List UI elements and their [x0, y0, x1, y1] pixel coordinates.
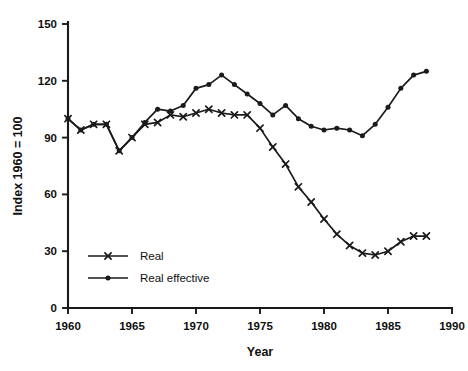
data-series-layer: [65, 69, 430, 258]
data-point: [373, 122, 378, 127]
data-point: [283, 161, 289, 167]
x-tick-label: 1985: [375, 320, 401, 332]
data-point: [283, 103, 288, 108]
x-tick-label: 1990: [439, 320, 465, 332]
data-point: [411, 73, 416, 78]
data-point: [386, 105, 391, 110]
data-point: [424, 69, 429, 74]
data-point: [347, 128, 352, 133]
x-tick-label: 1960: [55, 320, 81, 332]
y-axis-label: Index 1960 = 100: [11, 116, 25, 215]
data-point: [322, 128, 327, 133]
data-point: [334, 231, 340, 237]
legend-item-real-effective: Real effective: [88, 272, 209, 284]
data-point: [130, 135, 135, 140]
x-tick-label: 1965: [119, 320, 145, 332]
data-point: [270, 144, 276, 150]
data-point: [194, 86, 199, 91]
data-point: [398, 239, 404, 245]
legend-label: Real effective: [140, 272, 209, 284]
y-tick-label: 30: [44, 245, 57, 257]
data-point: [398, 86, 403, 91]
series-path: [68, 71, 426, 151]
data-point: [334, 126, 339, 131]
data-point: [270, 112, 275, 117]
y-tick-label: 0: [51, 302, 57, 314]
data-point: [295, 184, 301, 190]
data-point: [308, 199, 314, 205]
data-point: [181, 103, 186, 108]
data-point: [117, 148, 122, 153]
data-point: [66, 116, 71, 121]
y-tick-label: 90: [44, 132, 57, 144]
data-point: [232, 82, 237, 87]
data-point: [347, 242, 353, 248]
data-point: [296, 116, 301, 121]
chart-container: 0306090120150 19601965197019751980198519…: [0, 0, 468, 371]
x-axis-ticks: 1960196519701975198019851990: [55, 308, 465, 332]
y-tick-label: 60: [44, 188, 57, 200]
y-tick-label: 120: [38, 75, 57, 87]
x-tick-label: 1975: [247, 320, 273, 332]
axes-layer: [68, 22, 452, 308]
legend-label: Real: [140, 250, 164, 262]
data-point: [245, 92, 250, 97]
y-tick-label: 150: [38, 18, 57, 30]
x-tick-label: 1970: [183, 320, 209, 332]
data-point: [219, 73, 224, 78]
legend-item-real: Real: [88, 250, 164, 262]
data-point: [142, 120, 147, 125]
data-point: [155, 107, 160, 112]
x-tick-label: 1980: [311, 320, 337, 332]
y-axis-ticks: 0306090120150: [38, 18, 68, 314]
data-point: [309, 124, 314, 129]
data-point: [321, 216, 327, 222]
series-real: [65, 106, 430, 258]
series-path: [68, 109, 426, 255]
chart-legend: RealReal effective: [88, 250, 209, 284]
legend-marker: [106, 276, 111, 281]
data-point: [91, 122, 96, 127]
data-point: [104, 122, 109, 127]
data-point: [168, 109, 173, 114]
chart-plot-area: 0306090120150 19601965197019751980198519…: [0, 0, 468, 371]
data-point: [258, 101, 263, 106]
x-axis-label: Year: [247, 345, 274, 359]
series-real-effective: [66, 69, 429, 154]
data-point: [257, 125, 263, 131]
data-point: [78, 128, 83, 133]
data-point: [206, 82, 211, 87]
data-point: [360, 133, 365, 138]
